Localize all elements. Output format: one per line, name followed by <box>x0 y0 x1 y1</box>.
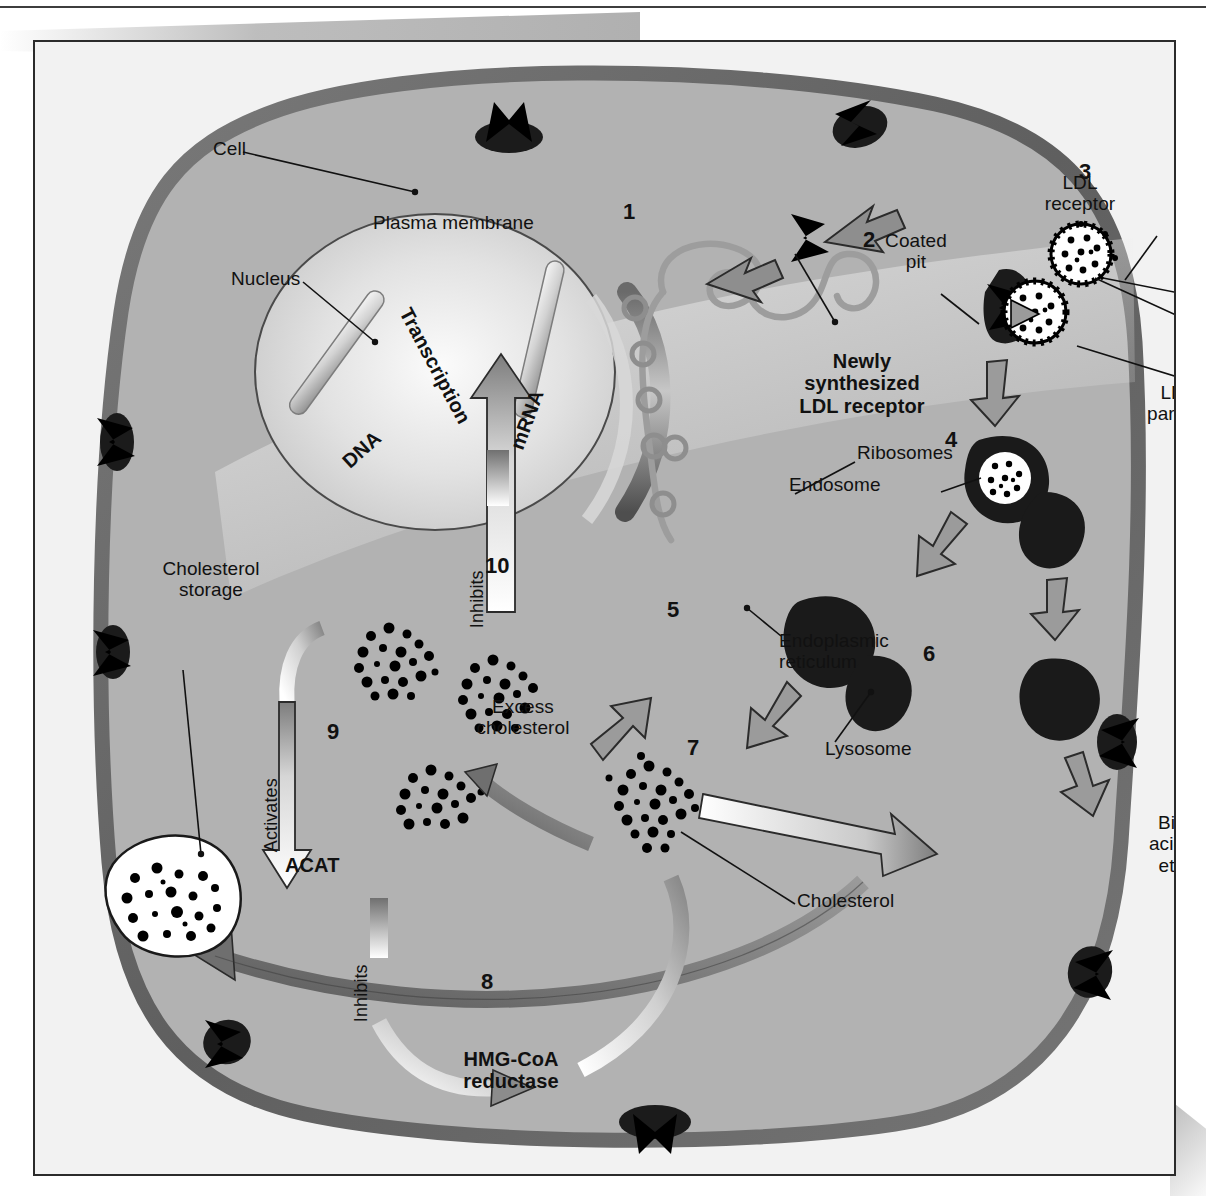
label-activates: Activates <box>261 778 281 852</box>
label-nucleus: Nucleus <box>231 268 300 289</box>
step-number-9: 9 <box>327 720 339 745</box>
label-ribosomes: Ribosomes <box>857 442 953 463</box>
label-acat: ACAT <box>285 854 339 876</box>
cholesterol-storage-droplet <box>105 835 240 956</box>
step-number-3: 3 <box>1079 160 1091 185</box>
label-coated-pit: Coated pit <box>871 230 961 273</box>
label-ldl-particle: LDL particle <box>1133 382 1176 425</box>
cell-diagram-svg <box>35 42 1174 1174</box>
label-excess-cholesterol: Excess cholesterol <box>453 696 593 739</box>
step-number-6: 6 <box>923 642 935 667</box>
label-inhibits-10: Inhibits <box>467 570 487 628</box>
label-plasma-membrane: Plasma membrane <box>373 212 534 233</box>
label-newly-synthesized-ldl-receptor: Newly synthesized LDL receptor <box>757 350 967 417</box>
label-cell: Cell <box>213 138 246 159</box>
inhibits-bar-8 <box>370 898 388 958</box>
label-endoplasmic-reticulum: Endoplasmic reticulum <box>779 630 889 673</box>
step-number-1: 1 <box>623 200 635 225</box>
figure-page: Cell Plasma membrane Nucleus DNA Transcr… <box>0 0 1206 1196</box>
step-number-7: 7 <box>687 736 699 761</box>
diagram-frame: Cell Plasma membrane Nucleus DNA Transcr… <box>33 40 1176 1176</box>
step-number-4: 4 <box>945 428 957 453</box>
step-number-10: 10 <box>485 554 510 579</box>
step-number-5: 5 <box>667 598 679 623</box>
label-bile-acids: Bile acids, etc. <box>1129 812 1176 876</box>
top-rule <box>0 6 1206 8</box>
label-endosome: Endosome <box>789 474 881 495</box>
label-inhibits-8: Inhibits <box>351 964 371 1022</box>
recycling-vesicle <box>1019 659 1099 741</box>
label-cholesterol: Cholesterol <box>797 890 894 911</box>
step-number-8: 8 <box>481 970 493 995</box>
step-number-2: 2 <box>863 228 875 253</box>
label-lysosome: Lysosome <box>825 738 912 759</box>
inhibits-bar-10 <box>487 450 509 506</box>
coated-pit-right-lower <box>1097 714 1139 770</box>
label-cholesterol-storage: Cholesterol storage <box>131 558 291 601</box>
label-hmg-coa-reductase: HMG-CoA reductase <box>441 1048 581 1093</box>
